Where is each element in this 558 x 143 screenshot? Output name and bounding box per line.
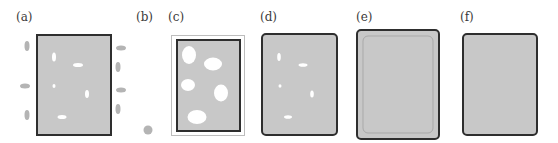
panel-f-box xyxy=(463,34,537,135)
satellite-particle xyxy=(116,46,126,51)
hole xyxy=(310,91,314,98)
panel-a-box xyxy=(37,35,111,135)
panel-label-c: (c) xyxy=(168,10,184,24)
satellite-particle xyxy=(20,84,30,89)
hole xyxy=(214,85,228,102)
panel-label-a: (a) xyxy=(16,10,33,24)
panel-a xyxy=(20,35,126,135)
hole xyxy=(73,63,83,67)
panel-label-f: (f) xyxy=(460,10,474,24)
hole xyxy=(299,63,308,67)
hole xyxy=(181,79,195,91)
hole xyxy=(279,84,282,88)
panel-f xyxy=(463,34,537,135)
panel-d-box xyxy=(262,34,337,135)
hole xyxy=(188,110,207,124)
panel-c xyxy=(172,36,245,136)
hole xyxy=(204,58,222,71)
satellite-particle xyxy=(116,88,126,93)
hole xyxy=(58,115,67,119)
hole xyxy=(85,90,89,98)
diagram-canvas: (a) (b) (c) (d) (e) (f) xyxy=(0,0,558,143)
hole xyxy=(277,53,281,61)
hole xyxy=(53,84,56,88)
hole xyxy=(52,53,56,62)
panel-d xyxy=(262,34,337,135)
panel-e-box xyxy=(357,30,439,139)
panel-label-e: (e) xyxy=(356,10,372,24)
particle-dot xyxy=(144,126,153,135)
panel-e xyxy=(357,30,439,139)
satellite-particle xyxy=(116,104,121,114)
satellite-particle xyxy=(25,41,30,51)
panel-label-d: (d) xyxy=(260,10,277,24)
satellite-particle xyxy=(116,62,121,72)
panel-b xyxy=(144,126,153,135)
hole xyxy=(182,46,196,64)
panel-label-b: (b) xyxy=(136,10,153,24)
hole xyxy=(284,115,292,119)
satellite-particle xyxy=(25,110,30,120)
